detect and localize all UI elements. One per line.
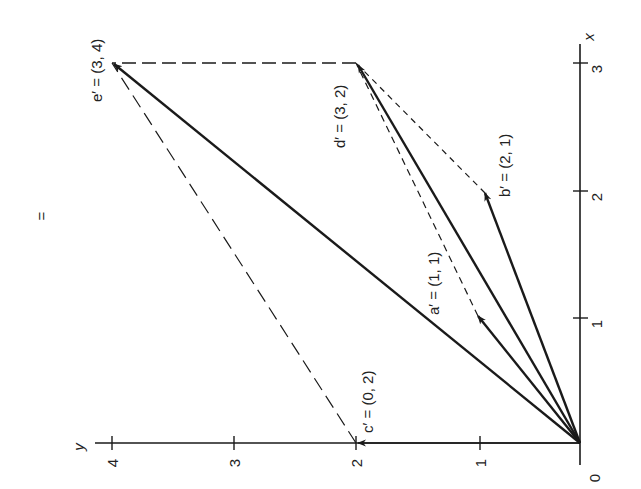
vector-a [478,316,580,443]
equals-symbol: = [33,211,50,220]
vector-diagram: 1 2 3 x 1 2 3 4 y 0 = a′ = (1, 1) b′ = (… [0,0,641,489]
x-axis-label: x [580,33,597,42]
y-tick-label-1: 1 [472,459,489,467]
origin-label: 0 [586,474,603,482]
vector-e-label: e′ = (3, 4) [88,39,105,102]
connector-c-to-e [112,63,356,443]
vector-c-label: c′ = (0, 2) [359,371,376,433]
y-tick-label-3: 3 [226,459,243,467]
x-axis [573,44,588,465]
x-tick-label-3: 3 [588,65,605,73]
y-tick-label-2: 2 [348,459,365,467]
connector-a-to-d [356,63,478,316]
vector-d [358,65,580,443]
y-axis-label: y [70,442,87,452]
vector-a-label: a′ = (1, 1) [425,252,442,315]
x-tick-label-1: 1 [588,320,605,328]
x-tick-label-2: 2 [588,193,605,201]
y-tick-label-4: 4 [104,459,121,467]
vector-b-label: b′ = (2, 1) [496,134,513,197]
vector-d-label: d′ = (3, 2) [331,85,348,148]
